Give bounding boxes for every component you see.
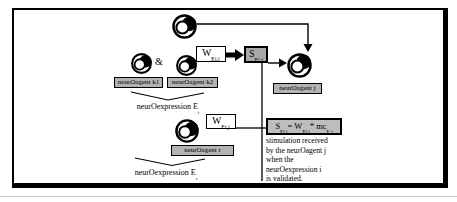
weight-box-ei-j: WEi,j bbox=[196, 46, 226, 62]
weight-er-sub: Er,j bbox=[221, 124, 229, 130]
caption-line: by the neurOagent j bbox=[266, 146, 328, 156]
label-neuroagent-r: neurOagent r bbox=[171, 145, 234, 156]
weight-box-er-j: WEr,j bbox=[206, 114, 236, 129]
weight-ei-base: W bbox=[202, 48, 211, 58]
figure-canvas: & WEi,j SEi,j neurOagent k1 neurOagent k… bbox=[0, 0, 457, 202]
ampersand: & bbox=[155, 56, 163, 67]
label-neuroagent-j: neurOagent j bbox=[273, 83, 322, 94]
weight-er-base: W bbox=[212, 116, 221, 126]
caption-line: neurOexpression i bbox=[266, 165, 328, 175]
weight-ei-sub: Ei,j bbox=[211, 56, 219, 62]
label-neuroagent-k1: neurOagent k1 bbox=[114, 77, 163, 88]
figure-frame bbox=[12, 8, 448, 188]
agent-circle-j bbox=[286, 52, 313, 79]
caption-line: is validated. bbox=[266, 174, 328, 184]
bottom-rule bbox=[0, 196, 457, 197]
agent-circle-top bbox=[171, 13, 198, 40]
formula-mult: * mc bbox=[310, 121, 327, 131]
caption-line: stimulation received bbox=[266, 136, 328, 146]
label-neuroexpression-i: neurOexpression Ei bbox=[128, 102, 208, 113]
label-neuroexpression-r: neurOexpression Er bbox=[126, 168, 206, 179]
agent-circle-k2 bbox=[175, 54, 198, 77]
formula-box: SEi,j= WEi,j* mcE i bbox=[266, 118, 342, 135]
agent-circle-k1 bbox=[130, 52, 153, 75]
formula-caption: stimulation received by the neurOagent j… bbox=[266, 136, 328, 184]
agent-circle-r bbox=[174, 118, 200, 144]
stimulus-box: SEi,j bbox=[244, 46, 268, 63]
caption-line: when the bbox=[266, 155, 328, 165]
formula-mid: = W bbox=[288, 121, 303, 131]
label-neuroagent-k2: neurOagent k2 bbox=[167, 77, 218, 88]
stimulus-sub: Ei,j bbox=[254, 57, 262, 63]
